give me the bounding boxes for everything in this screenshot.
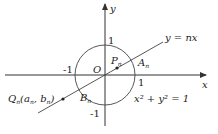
origin-label: O (93, 64, 101, 75)
circle-equation-label: x² + y² = 1 (134, 93, 189, 104)
tick-y-pos: 1 (108, 35, 114, 46)
line-equation-label: y = nx (164, 32, 198, 43)
tick-y-neg: -1 (90, 108, 100, 119)
point-q-label: Qn(an, bn) (8, 93, 54, 105)
point-b-label: Bn (79, 92, 91, 104)
point-a-label: An (137, 57, 149, 69)
y-axis-label: y (109, 3, 116, 14)
tick-x-pos: 1 (138, 77, 144, 88)
tick-x-neg: -1 (63, 64, 73, 75)
x-axis-label: x (202, 79, 208, 90)
point-q (61, 97, 64, 100)
unit-circle-diagram: y x O 1 -1 1 -1 y = nx x² + y² = 1 Pn An… (0, 0, 218, 134)
point-p-label: Pn (110, 55, 122, 67)
